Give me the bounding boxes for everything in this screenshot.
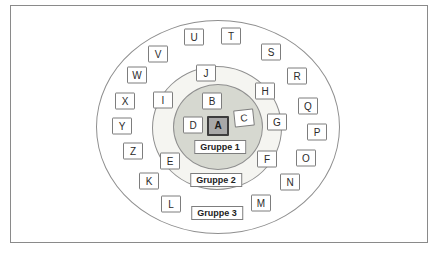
diagram-stage: ABCDEFGHIJKLMNOPQRSTUVWXYZ Gruppe 1Grupp… [0,0,437,257]
node-box-s: S [261,44,281,61]
node-box-m: M [251,195,271,212]
node-box-o: O [296,150,316,167]
node-box-k: K [139,173,159,190]
node-box-g: G [267,114,287,131]
node-box-e: E [160,153,180,170]
node-box-j: J [196,65,216,82]
node-box-r: R [287,68,307,85]
node-box-a: A [207,116,229,136]
node-box-d: D [183,117,203,134]
node-box-t: T [221,28,241,45]
group-label-1: Gruppe 1 [194,140,246,154]
node-box-h: H [255,83,275,100]
node-box-z: Z [123,143,143,160]
node-box-q: Q [298,98,318,115]
node-box-p: P [307,124,327,141]
node-box-i: I [153,92,173,109]
node-box-x: X [115,93,135,110]
group-label-2: Gruppe 2 [190,173,242,187]
node-box-w: W [127,67,147,84]
node-box-f: F [257,151,277,168]
node-box-y: Y [112,118,132,135]
node-box-n: N [280,174,300,191]
node-box-u: U [184,29,204,46]
node-box-l: L [161,196,181,213]
group-label-3: Gruppe 3 [191,206,243,220]
node-box-b: B [202,93,222,110]
node-box-c: C [233,109,255,128]
node-box-v: V [148,46,168,63]
